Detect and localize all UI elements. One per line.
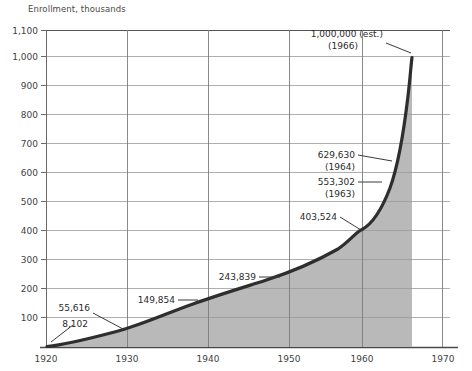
ytick-label-600: 600: [21, 168, 38, 178]
ytick-label-700: 700: [21, 139, 38, 149]
xtick-label-1970: 1970: [432, 354, 455, 364]
ytick-label-500: 500: [21, 197, 38, 207]
y-axis-ticks: [41, 31, 46, 318]
annotation-553302: 553,302: [318, 177, 355, 187]
xtick-label-1930: 1930: [116, 354, 139, 364]
x-axis-tick-labels: 1920 1930 1940 1950 1960 1970: [35, 354, 455, 364]
xtick-label-1950: 1950: [278, 354, 301, 364]
y-axis-tick-labels: 100 200 300 400 500 600 700 800 900 1,00…: [12, 26, 38, 323]
ytick-label-1100: 1,100: [12, 26, 38, 36]
annotation-149854: 149,854: [138, 295, 175, 305]
xtick-label-1940: 1940: [197, 354, 220, 364]
annotation-1000000: 1,000,000 (est.): [311, 29, 383, 39]
annotation-553302-year: (1963): [325, 189, 355, 199]
xtick-label-1960: 1960: [351, 354, 374, 364]
ytick-label-1000: 1,000: [12, 52, 38, 62]
ytick-label-400: 400: [21, 226, 38, 236]
ytick-label-200: 200: [21, 284, 38, 294]
annotation-629630: 629,630: [318, 150, 355, 160]
ytick-label-800: 800: [21, 110, 38, 120]
xtick-label-1920: 1920: [35, 354, 58, 364]
ytick-label-900: 900: [21, 81, 38, 91]
annotation-403524: 403,524: [300, 212, 337, 222]
annotation-8102: 8,102: [62, 319, 88, 329]
chart-axis-title: Enrollment, thousands: [28, 4, 126, 14]
annotation-55616: 55,616: [59, 303, 91, 313]
annotation-243839: 243,839: [219, 272, 256, 282]
enrollment-growth-chart: Enrollment, thousands: [0, 0, 472, 371]
annotation-1000000-year: (1966): [328, 41, 358, 51]
ytick-label-100: 100: [21, 313, 38, 323]
annotation-629630-year: (1964): [325, 162, 355, 172]
ytick-label-300: 300: [21, 255, 38, 265]
chart-canvas: 100 200 300 400 500 600 700 800 900 1,00…: [0, 0, 472, 371]
